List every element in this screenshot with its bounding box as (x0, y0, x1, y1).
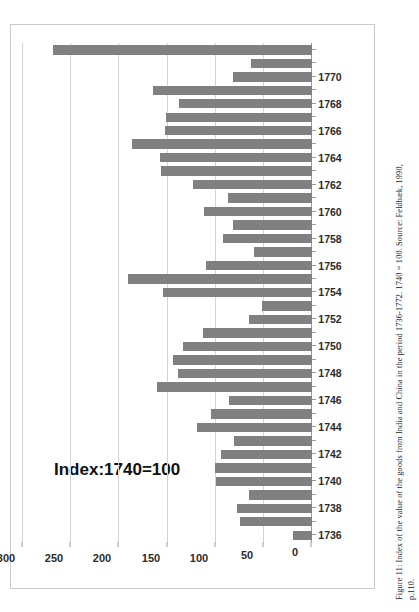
bar-1751 (203, 328, 312, 337)
category-tick-mark-1739 (312, 494, 316, 495)
category-tick-text: 1758 (318, 233, 341, 245)
chart-frame: Index:1740=100 300250200150100500 173617… (10, 24, 375, 589)
bar-slot-1756 (23, 259, 312, 272)
category-tick-mark-1762 (312, 184, 316, 185)
category-tick-mark-1740 (312, 480, 316, 481)
value-tick-label-300: 300 (0, 542, 14, 567)
category-tick-mark-1756 (312, 265, 316, 266)
plot-area: 300250200150100500 173617381740174217441… (23, 43, 312, 542)
bar-slot-1761 (23, 191, 312, 204)
bar-1744 (197, 423, 312, 432)
value-tick-text: 0 (292, 546, 298, 558)
bar-slot-1748 (23, 367, 312, 380)
bar-1736 (293, 531, 312, 540)
category-tick-text: 1770 (318, 71, 341, 83)
category-tick-text: 1766 (318, 125, 341, 137)
bar-1766 (165, 126, 312, 135)
bar-1760 (204, 207, 312, 216)
category-tick-mark-1760 (312, 211, 316, 212)
category-tick-mark-1754 (312, 292, 316, 293)
bar-slot-1742 (23, 448, 312, 461)
category-tick-mark-1736 (312, 534, 316, 535)
category-tick-mark-1748 (312, 372, 316, 373)
value-tick-label-250: 250 (44, 542, 62, 567)
bar-1746 (229, 396, 312, 405)
category-tick-mark-1769 (312, 89, 316, 90)
bar-slot-1762 (23, 178, 312, 191)
category-tick-mark-1753 (312, 305, 316, 306)
bar-1742 (221, 450, 312, 459)
category-tick-mark-1763 (312, 170, 316, 171)
bar-slot-1747 (23, 380, 312, 393)
bar-1738 (237, 504, 312, 513)
category-tick-text: 1746 (318, 394, 341, 406)
bar-1737 (240, 517, 312, 526)
bar-1763 (161, 166, 312, 175)
category-tick-text: 1754 (318, 287, 341, 299)
category-tick-text: 1736 (318, 529, 341, 541)
value-tick-label-150: 150 (141, 542, 159, 567)
value-tick-label-50: 50 (237, 542, 255, 561)
bar-slot-1765 (23, 137, 312, 150)
category-tick-mark-1765 (312, 143, 316, 144)
category-tick-mark-1749 (312, 359, 316, 360)
category-tick-mark-1752 (312, 318, 316, 319)
value-tick-text: 250 (45, 552, 63, 564)
bar-1771 (251, 59, 312, 68)
bar-1743 (234, 436, 312, 445)
category-tick-mark-1742 (312, 453, 316, 454)
category-tick-mark-1738 (312, 507, 316, 508)
category-tick-label-1740: 1740 (320, 470, 338, 493)
category-tick-label-1754: 1754 (320, 281, 338, 304)
category-tick-label-1738: 1738 (320, 497, 338, 520)
value-tick-text: 50 (241, 549, 253, 561)
bar-1753 (262, 301, 312, 310)
category-tick-mark-1761 (312, 197, 316, 198)
bar-1762 (193, 180, 312, 189)
bar-1748 (178, 369, 312, 378)
category-tick-mark-1767 (312, 116, 316, 117)
tick-mark-50 (262, 542, 263, 547)
category-tick-text: 1750 (318, 340, 341, 352)
category-tick-mark-1744 (312, 426, 316, 427)
category-tick-mark-1741 (312, 467, 316, 468)
bar-1757 (254, 247, 312, 256)
value-tick-label-0: 0 (285, 542, 303, 555)
category-tick-label-1762: 1762 (320, 173, 338, 196)
bar-slot-1766 (23, 124, 312, 137)
bar-1754 (163, 288, 312, 297)
value-tick-text: 100 (189, 552, 207, 564)
category-tick-mark-1758 (312, 238, 316, 239)
category-tick-mark-1737 (312, 521, 316, 522)
bar-slot-1753 (23, 299, 312, 312)
category-tick-label-1770: 1770 (320, 65, 338, 88)
bar-slot-1739 (23, 488, 312, 501)
bar-slot-1770 (23, 70, 312, 83)
bar-1756 (206, 261, 312, 270)
value-tick-label-200: 200 (92, 542, 110, 567)
category-tick-label-1768: 1768 (320, 92, 338, 115)
category-tick-mark-1772 (312, 49, 316, 50)
category-tick-label-1750: 1750 (320, 335, 338, 358)
bar-1758 (223, 234, 312, 243)
category-tick-mark-1746 (312, 399, 316, 400)
category-tick-mark-1750 (312, 345, 316, 346)
value-tick-text: 200 (93, 552, 111, 564)
category-tick-text: 1740 (318, 475, 341, 487)
category-tick-text: 1756 (318, 260, 341, 272)
tick-mark-150 (166, 542, 167, 547)
category-tick-label-1744: 1744 (320, 416, 338, 439)
tick-mark-0 (311, 542, 312, 547)
category-tick-mark-1771 (312, 62, 316, 63)
category-tick-text: 1762 (318, 179, 341, 191)
bar-1745 (211, 409, 312, 418)
bar-slot-1752 (23, 313, 312, 326)
bar-slot-1754 (23, 286, 312, 299)
bar-1750 (183, 342, 312, 351)
category-tick-text: 1768 (318, 98, 341, 110)
category-tick-mark-1747 (312, 386, 316, 387)
bar-1759 (233, 220, 312, 229)
bar-1740 (216, 477, 312, 486)
category-tick-text: 1752 (318, 313, 341, 325)
bar-1761 (228, 193, 312, 202)
